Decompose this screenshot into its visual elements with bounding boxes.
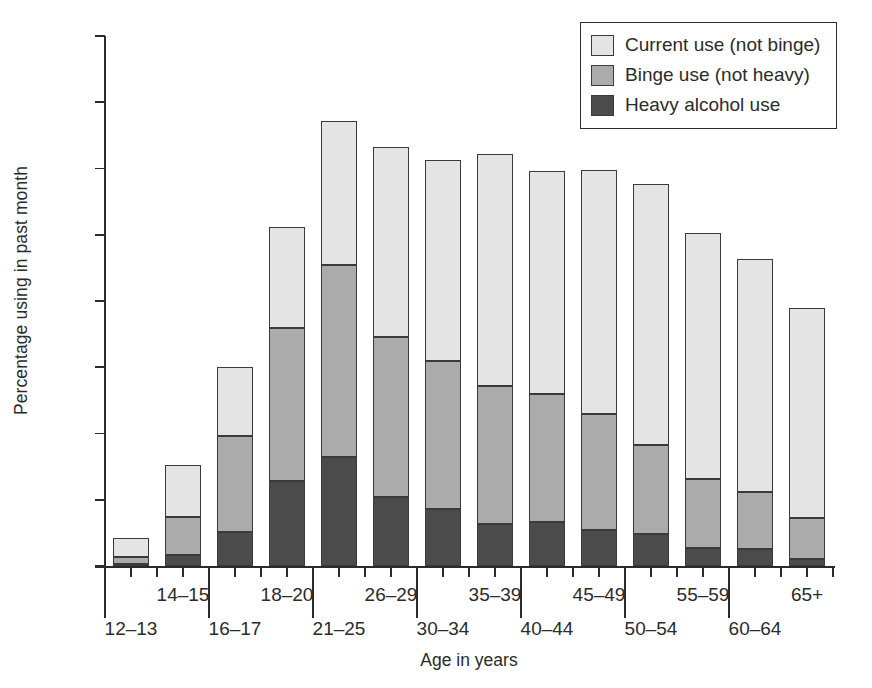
x-axis-tick-label: 16–17 <box>209 618 262 640</box>
x-axis-tick-mark <box>390 566 391 577</box>
legend-swatch-icon <box>591 35 614 56</box>
x-axis-tick-mark <box>442 566 443 577</box>
bar-segment-binge-use[interactable] <box>581 414 617 531</box>
legend-item[interactable]: Binge use (not heavy) <box>591 60 820 90</box>
legend-item-label: Heavy alcohol use <box>625 94 780 116</box>
bar-group[interactable] <box>425 160 461 566</box>
bar-segment-current-use[interactable] <box>633 184 669 445</box>
bar-group[interactable] <box>477 154 513 566</box>
x-axis-tick-mark <box>286 566 287 577</box>
x-axis-tick-mark <box>546 566 547 577</box>
x-axis-leader-line <box>104 566 105 618</box>
y-axis-tick-mark <box>95 35 105 37</box>
bar-group[interactable] <box>529 171 565 567</box>
bar-segment-binge-use[interactable] <box>789 518 825 560</box>
y-axis-tick-mark <box>95 234 105 236</box>
bar-segment-heavy-alcohol-use[interactable] <box>477 524 513 566</box>
x-axis-tick-label: 45–49 <box>573 584 626 606</box>
bar-segment-current-use[interactable] <box>269 227 305 328</box>
bar-segment-binge-use[interactable] <box>477 386 513 524</box>
bar-segment-current-use[interactable] <box>581 170 617 414</box>
x-axis-tick-mark <box>650 566 651 577</box>
x-axis-tick-mark <box>338 566 339 577</box>
bar-group[interactable] <box>685 233 721 566</box>
bar-segment-current-use[interactable] <box>165 465 201 517</box>
y-axis-tick-mark <box>95 101 105 103</box>
x-axis-title: Age in years <box>105 650 833 671</box>
x-axis-tick-label: 30–34 <box>417 618 470 640</box>
y-axis-tick-mark <box>95 499 105 501</box>
x-axis-tick-mark <box>234 566 235 577</box>
bar-segment-heavy-alcohol-use[interactable] <box>633 534 669 566</box>
bar-segment-binge-use[interactable] <box>529 394 565 522</box>
bar-segment-binge-use[interactable] <box>269 328 305 480</box>
bar-group[interactable] <box>373 147 409 566</box>
y-axis-tick-mark <box>95 300 105 302</box>
bar-segment-heavy-alcohol-use[interactable] <box>217 532 253 566</box>
bar-segment-binge-use[interactable] <box>113 557 149 564</box>
bar-segment-heavy-alcohol-use[interactable] <box>425 509 461 566</box>
bar-segment-current-use[interactable] <box>789 308 825 518</box>
bar-group[interactable] <box>633 184 669 566</box>
bar-segment-heavy-alcohol-use[interactable] <box>529 522 565 566</box>
x-axis-tick-mark <box>806 566 807 577</box>
bar-segment-heavy-alcohol-use[interactable] <box>685 548 721 566</box>
bar-segment-heavy-alcohol-use[interactable] <box>737 549 773 566</box>
x-axis-tick-mark <box>572 566 573 577</box>
bar-segment-heavy-alcohol-use[interactable] <box>581 530 617 566</box>
bar-segment-current-use[interactable] <box>529 171 565 395</box>
bar-segment-heavy-alcohol-use[interactable] <box>321 457 357 566</box>
y-axis-tick-mark <box>95 366 105 368</box>
x-axis-tick-label: 50–54 <box>625 618 678 640</box>
x-axis-tick-mark <box>702 566 703 577</box>
bar-segment-current-use[interactable] <box>113 538 149 557</box>
bar-segment-binge-use[interactable] <box>217 436 253 532</box>
bar-segment-binge-use[interactable] <box>425 361 461 509</box>
x-axis-tick-label: 21–25 <box>313 618 366 640</box>
bar-group[interactable] <box>165 465 201 566</box>
bar-group[interactable] <box>269 227 305 566</box>
bar-group[interactable] <box>581 170 617 566</box>
bar-group[interactable] <box>789 308 825 566</box>
bar-segment-current-use[interactable] <box>321 121 357 265</box>
bar-segment-binge-use[interactable] <box>373 337 409 497</box>
bar-segment-binge-use[interactable] <box>321 265 357 456</box>
bar-segment-binge-use[interactable] <box>685 479 721 548</box>
bar-segment-current-use[interactable] <box>217 367 253 436</box>
legend-item[interactable]: Current use (not binge) <box>591 30 820 60</box>
bar-segment-binge-use[interactable] <box>633 445 669 534</box>
x-axis-tick-label: 12–13 <box>105 618 158 640</box>
x-axis-tick-mark <box>676 566 677 577</box>
legend-swatch-icon <box>591 95 614 116</box>
x-axis-tick-mark <box>494 566 495 577</box>
legend-item[interactable]: Heavy alcohol use <box>591 90 820 120</box>
x-axis-tick-label: 18–20 <box>261 584 314 606</box>
x-axis-tick-mark <box>260 566 261 577</box>
bar-segment-current-use[interactable] <box>425 160 461 361</box>
bar-group[interactable] <box>737 259 773 566</box>
bar-segment-heavy-alcohol-use[interactable] <box>789 559 825 566</box>
x-axis-tick-label: 55–59 <box>677 584 730 606</box>
bar-group[interactable] <box>217 367 253 566</box>
x-axis-tick-mark <box>598 566 599 577</box>
x-axis-tick-mark <box>364 566 365 577</box>
x-axis-tick-mark <box>182 566 183 577</box>
bar-segment-binge-use[interactable] <box>165 517 201 555</box>
x-axis-tick-label: 35–39 <box>469 584 522 606</box>
bar-segment-binge-use[interactable] <box>737 492 773 548</box>
bar-segment-current-use[interactable] <box>477 154 513 387</box>
y-axis-title-text: Percentage using in past month <box>12 165 33 414</box>
y-axis-tick-mark <box>95 433 105 435</box>
bar-group[interactable] <box>321 121 357 566</box>
bar-segment-heavy-alcohol-use[interactable] <box>269 481 305 566</box>
x-axis-tick-mark <box>156 566 157 577</box>
bar-segment-current-use[interactable] <box>685 233 721 479</box>
bar-segment-current-use[interactable] <box>373 147 409 337</box>
bar-segment-current-use[interactable] <box>737 259 773 493</box>
legend-item-label: Current use (not binge) <box>625 34 820 56</box>
bar-group[interactable] <box>113 538 149 566</box>
alcohol-use-bar-chart: Percentage using in past month 010203040… <box>0 0 872 688</box>
bar-segment-heavy-alcohol-use[interactable] <box>373 497 409 566</box>
legend-swatch-icon <box>591 65 614 86</box>
bar-segment-heavy-alcohol-use[interactable] <box>165 555 201 566</box>
